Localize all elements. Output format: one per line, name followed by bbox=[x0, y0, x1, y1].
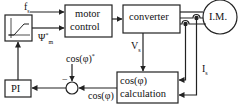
fs-subscript: s bbox=[27, 8, 29, 14]
cos-ref-label: cos(φ)* bbox=[66, 51, 95, 64]
psi-superscript: * bbox=[45, 32, 48, 38]
pi-label: PI bbox=[11, 84, 20, 94]
motor-control-line2: control bbox=[70, 22, 100, 32]
sum-minus-sign: − bbox=[62, 75, 68, 85]
is-label: Is bbox=[202, 64, 208, 78]
psi-subscript: m bbox=[48, 39, 53, 45]
motor-label: I.M. bbox=[209, 12, 227, 22]
cos-ref-superscript: * bbox=[92, 53, 95, 59]
is-subscript: s bbox=[205, 70, 207, 76]
converter-label: converter bbox=[129, 12, 169, 22]
ramp-block bbox=[5, 15, 32, 41]
vs-label: Vs bbox=[131, 41, 141, 55]
cos-calc-line1: cos(φ) bbox=[120, 76, 147, 86]
cos-feedback-label: cos(φ) bbox=[88, 91, 114, 101]
cos-ref-text: cos(φ) bbox=[66, 53, 92, 64]
vs-subscript: s bbox=[138, 47, 140, 53]
motor-control-line1: motor bbox=[75, 9, 100, 19]
fs-label: fs bbox=[24, 2, 30, 16]
cos-calc-line2: calculation bbox=[120, 89, 166, 99]
ramp-curve-icon bbox=[9, 24, 29, 35]
psi-label: Ψ*m bbox=[38, 30, 53, 47]
